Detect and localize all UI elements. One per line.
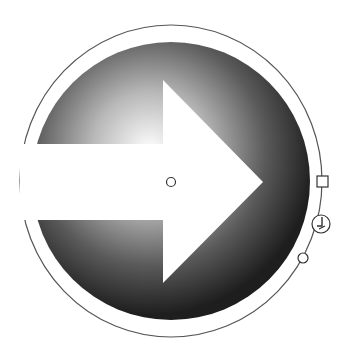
focus-handle[interactable] (298, 253, 308, 263)
gradient-editor-canvas[interactable] (0, 0, 342, 345)
radius-handle[interactable] (317, 176, 328, 187)
rotate-handle[interactable] (312, 215, 330, 233)
center-handle[interactable] (167, 178, 176, 187)
